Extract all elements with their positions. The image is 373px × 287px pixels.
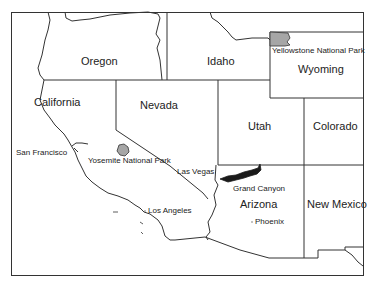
oregon-north-border [65,12,162,80]
city-label-phoenix: Phoenix [255,218,284,226]
los-angeles-dot [144,210,146,212]
city-label-san-francisco: San Francisco [16,149,67,157]
park-label-yosemite: Yosemite National Park [88,157,171,165]
phoenix-dot [251,221,253,223]
grand-canyon-shape [220,164,261,182]
city-label-las-vegas: Las Vegas [177,168,214,176]
state-label-new-mexico: New Mexico [307,199,367,210]
idaho-montana-border [210,12,270,40]
western-us-map [0,0,373,287]
state-label-utah: Utah [248,121,271,132]
state-label-nevada: Nevada [140,100,178,111]
state-label-oregon: Oregon [81,56,118,67]
city-label-los-angeles: Los Angeles [148,207,192,215]
yosemite-park-shape [117,144,129,156]
state-label-colorado: Colorado [313,121,358,132]
state-label-california: California [34,97,80,108]
state-label-wyoming: Wyoming [298,64,344,75]
yellowstone-park-shape [270,32,290,46]
state-label-arizona: Arizona [240,199,277,210]
park-label-grand-canyon: Grand Canyon [233,185,285,193]
state-label-idaho: Idaho [207,56,235,67]
park-label-yellowstone: Yellowstone National Park [272,47,365,55]
